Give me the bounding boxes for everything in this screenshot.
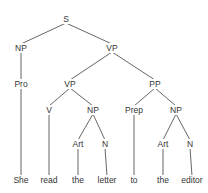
tree-edge-VP2-NP2 [70, 88, 93, 106]
word-leaf: editor [180, 175, 203, 185]
tree-edge-NP3-Art2 [163, 114, 176, 140]
tree-edge-PP-NP3 [155, 88, 176, 106]
tree-edge-NP2-Art1 [78, 114, 93, 140]
tree-node-pp: PP [148, 79, 161, 89]
syntax-tree-edges [0, 0, 208, 193]
tree-node-art: Art [72, 139, 85, 149]
tree-node-vp: VP [105, 43, 118, 53]
tree-edge-VP1-VP2 [70, 52, 112, 80]
tree-node-prep: Prep [124, 105, 144, 115]
tree-edge-PP-Prep [134, 88, 155, 106]
tree-edge-VP1-PP [112, 52, 155, 80]
tree-node-np: NP [169, 105, 183, 115]
word-leaf: the [156, 175, 170, 185]
tree-node-vp: VP [63, 79, 76, 89]
tree-node-n: N [101, 139, 109, 149]
tree-edge-VP2-V [49, 88, 70, 106]
tree-edge-S-VP1 [66, 23, 112, 44]
word-leaf: letter [97, 175, 118, 185]
word-leaf: She [12, 175, 29, 185]
tree-node-s: S [62, 14, 70, 24]
tree-node-np: NP [86, 105, 100, 115]
word-leaf: to [129, 175, 138, 185]
word-leaf: read [39, 175, 58, 185]
tree-node-v: V [45, 105, 53, 115]
tree-edge-NP2-N1 [93, 114, 105, 140]
tree-node-pro: Pro [13, 79, 28, 89]
word-leaf: the [71, 175, 85, 185]
tree-node-art: Art [157, 139, 170, 149]
tree-edge-N1-w4 [105, 148, 107, 176]
tree-edge-N2-w7 [190, 148, 192, 176]
tree-edge-NP3-N2 [176, 114, 190, 140]
tree-node-n: N [186, 139, 194, 149]
tree-node-np: NP [14, 43, 28, 53]
tree-edge-S-NP1 [21, 23, 66, 44]
